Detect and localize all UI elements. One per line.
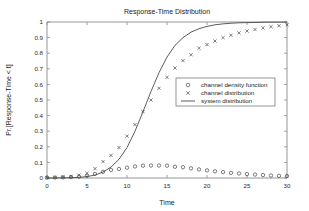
data-point-cross [173, 66, 176, 69]
x-tick-label: 20 [204, 182, 211, 189]
data-point-circle [253, 173, 256, 176]
data-point-circle [157, 164, 160, 167]
figure-canvas: Response-Time Distribution 051015202530 … [0, 0, 309, 211]
data-point-cross [261, 26, 264, 29]
data-point-cross [277, 24, 280, 27]
data-point-cross [133, 123, 136, 126]
x-axis-title: Time [159, 199, 174, 206]
data-point-cross [221, 36, 224, 39]
data-point-cross [101, 160, 104, 163]
data-point-cross [213, 39, 216, 42]
data-point-cross [253, 28, 256, 31]
data-point-cross [189, 53, 192, 56]
data-point-circle [277, 174, 280, 177]
data-point-circle [125, 166, 128, 169]
chart-title: Response-Time Distribution [124, 8, 210, 16]
data-point-circle [173, 165, 176, 168]
data-point-circle [141, 164, 144, 167]
data-point-cross [269, 25, 272, 28]
y-tick-label: 0 [40, 174, 44, 181]
data-point-circle [221, 170, 224, 173]
y-tick-label: 0.3 [34, 127, 43, 134]
data-point-circle [229, 171, 232, 174]
response-time-distribution-chart: Response-Time Distribution 051015202530 … [0, 0, 309, 211]
y-tick-label: 0.1 [34, 159, 43, 166]
data-point-circle [237, 172, 240, 175]
y-tick-label: 0.6 [34, 81, 43, 88]
x-tick-label: 30 [284, 182, 291, 189]
data-point-cross [165, 76, 168, 79]
y-tick-label: 0.8 [34, 49, 43, 56]
data-point-circle [197, 168, 200, 171]
y-tick-label: 0.7 [34, 65, 43, 72]
data-point-cross [117, 146, 120, 149]
x-tick-label: 15 [164, 182, 171, 189]
data-point-circle [149, 164, 152, 167]
data-point-cross [229, 34, 232, 37]
data-point-cross [109, 154, 112, 157]
data-point-circle [181, 166, 184, 169]
data-point-cross [85, 172, 88, 175]
data-point-circle [189, 167, 192, 170]
data-point-cross [157, 87, 160, 90]
data-point-circle [133, 165, 136, 168]
data-point-cross [53, 176, 56, 179]
data-point-cross [197, 47, 200, 50]
data-point-circle [117, 167, 120, 170]
data-point-cross [237, 31, 240, 34]
data-point-cross [93, 167, 96, 170]
y-tick-label: 0.2 [34, 143, 43, 150]
y-tick-label: 1 [40, 18, 44, 25]
y-tick-label: 0.4 [34, 112, 43, 119]
data-point-circle [269, 174, 272, 177]
legend-label: system distribution [201, 97, 253, 104]
data-point-cross [125, 135, 128, 138]
y-tick-label: 0.5 [34, 96, 43, 103]
data-point-cross [245, 29, 248, 32]
x-tick-label: 5 [85, 182, 89, 189]
data-point-circle [165, 164, 168, 167]
x-tick-label: 0 [45, 182, 49, 189]
data-point-circle [109, 168, 112, 171]
x-tick-label: 10 [124, 182, 131, 189]
legend-label: channel distribution [201, 89, 255, 96]
data-point-cross [181, 59, 184, 62]
data-point-circle [261, 173, 264, 176]
data-point-cross [205, 43, 208, 46]
chart-legend[interactable]: channel density functionchannel distribu… [176, 78, 275, 106]
x-tick-label: 25 [244, 182, 251, 189]
data-point-circle [213, 170, 216, 173]
data-point-cross [149, 98, 152, 101]
y-tick-label: 0.9 [34, 34, 43, 41]
data-point-circle [205, 169, 208, 172]
y-axis-title: Pr.[Response-Time < t] [5, 64, 13, 136]
legend-label: channel density function [201, 81, 268, 88]
